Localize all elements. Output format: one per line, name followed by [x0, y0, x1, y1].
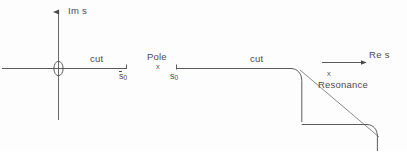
s-bar-zero-symbol: s	[119, 72, 124, 81]
real-axis-label: Re s	[369, 50, 390, 60]
s-bar-zero-subscript: 0	[124, 74, 128, 81]
contour-bottom-path	[302, 125, 378, 152]
s-zero-subscript: 0	[175, 74, 179, 81]
right-cut-path	[177, 69, 302, 123]
resonance-label: Resonance	[318, 80, 368, 90]
pole-label: Pole	[147, 52, 167, 62]
overbar-glyph	[119, 71, 122, 72]
s-bar-zero-label: s0	[119, 72, 127, 82]
resonance-cross-marker: x	[327, 70, 331, 78]
s-bar-zero-base: s	[119, 71, 124, 81]
diagram-canvas	[0, 0, 407, 151]
imaginary-axis-label: Im s	[68, 6, 87, 16]
right-cut-label: cut	[250, 54, 263, 64]
left-cut-label: cut	[90, 54, 103, 64]
pole-cross-marker: x	[156, 63, 160, 71]
s-zero-label: s0	[170, 72, 178, 82]
complex-s-plane-diagram: Im s Re s cut cut Pole x x Resonance s0 …	[0, 0, 407, 151]
